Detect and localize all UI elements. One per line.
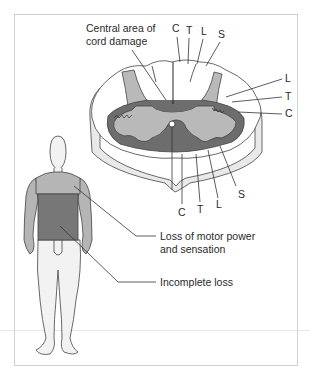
head <box>50 136 66 170</box>
label-right-l: L <box>285 72 291 84</box>
human-figure <box>24 136 92 355</box>
label-right-c: C <box>285 107 293 119</box>
label-cord-damage: cord damage <box>86 35 147 47</box>
spinal-cord-section <box>90 60 262 192</box>
label-top-t: T <box>186 24 193 36</box>
label-right-t: T <box>285 90 292 102</box>
label-bottom-l: L <box>216 198 222 210</box>
top-tract-labels: C T L S <box>172 22 225 66</box>
trunk-full-loss <box>38 194 78 240</box>
label-motor-loss-2: and sensation <box>160 243 226 255</box>
label-top-l: L <box>201 25 207 37</box>
label-top-s: S <box>218 28 225 40</box>
upper-chest-partial-loss <box>36 172 80 194</box>
central-canal <box>169 121 175 127</box>
label-bottom-s: S <box>238 188 245 200</box>
legs <box>36 240 81 355</box>
central-cord-diagram: Central area of cord damage C T L S L T … <box>0 0 310 380</box>
motor-loss-callout: Loss of motor power and sensation <box>74 186 256 255</box>
label-bottom-c: C <box>178 206 186 218</box>
label-incomplete-loss: Incomplete loss <box>160 276 233 288</box>
label-bottom-t: T <box>197 203 204 215</box>
label-motor-loss-1: Loss of motor power <box>160 230 256 242</box>
label-central-area: Central area of <box>86 22 156 34</box>
label-top-c: C <box>172 22 180 34</box>
